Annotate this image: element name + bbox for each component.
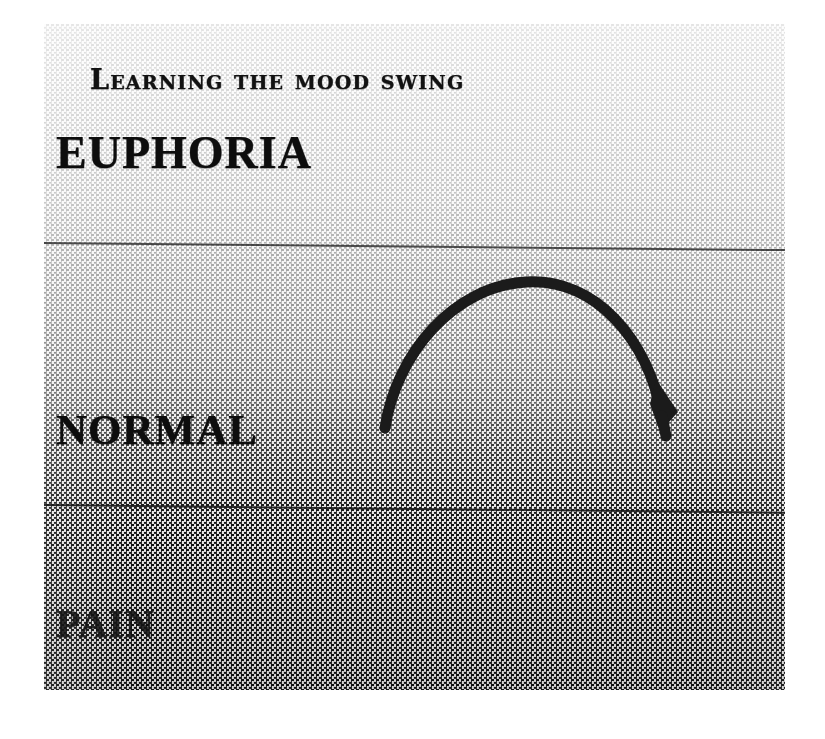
zone-label-pain: PAIN [56,604,155,644]
mood-swing-figure: Learning the mood swing EUPHORIA NORMAL … [44,24,785,690]
figure-title: Learning the mood swing [90,66,464,93]
zone-label-normal: NORMAL [56,408,258,451]
halftone-dot-screen-secondary [44,24,785,690]
zone-label-euphoria: EUPHORIA [56,130,312,176]
